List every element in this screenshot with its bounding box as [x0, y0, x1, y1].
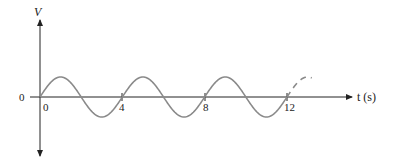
tick-label-4: 4: [119, 101, 125, 113]
y-zero-label: 0: [19, 91, 25, 103]
y-axis-label: V: [34, 5, 43, 19]
voltage-time-chart: V t (s) 0 0 4 8 12: [0, 0, 393, 166]
sine-curve-dashed-extension: [287, 77, 312, 97]
tick-label-12: 12: [284, 101, 295, 113]
x-zero-label: 0: [43, 101, 49, 113]
tick-label-8: 8: [203, 101, 209, 113]
x-axis-label: t (s): [357, 90, 376, 104]
